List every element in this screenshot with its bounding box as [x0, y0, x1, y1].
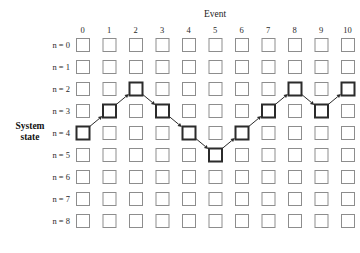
state-cell-e5-n4[interactable] — [209, 127, 222, 140]
state-cell-e1-n4[interactable] — [103, 127, 116, 140]
state-cell-e9-n4[interactable] — [315, 127, 328, 140]
state-cell-e4-n3[interactable] — [183, 105, 196, 118]
state-cell-e4-n1[interactable] — [183, 61, 196, 74]
state-cell-e10-n4[interactable] — [342, 127, 355, 140]
state-cell-e3-n2[interactable] — [156, 83, 169, 96]
state-cell-e5-n0[interactable] — [209, 39, 222, 52]
state-cell-e8-n5[interactable] — [289, 149, 302, 162]
state-cell-active-e0-n4[interactable] — [77, 127, 90, 140]
state-cell-e10-n0[interactable] — [342, 39, 355, 52]
state-cell-e3-n7[interactable] — [156, 193, 169, 206]
state-cell-e1-n6[interactable] — [103, 171, 116, 184]
state-cell-e5-n8[interactable] — [209, 215, 222, 228]
state-cell-e4-n6[interactable] — [183, 171, 196, 184]
state-cell-e7-n2[interactable] — [262, 83, 275, 96]
state-cell-e1-n2[interactable] — [103, 83, 116, 96]
state-cell-e2-n8[interactable] — [130, 215, 143, 228]
state-cell-e10-n8[interactable] — [342, 215, 355, 228]
state-cell-e9-n1[interactable] — [315, 61, 328, 74]
state-cell-e10-n1[interactable] — [342, 61, 355, 74]
state-cell-e4-n7[interactable] — [183, 193, 196, 206]
state-cell-e1-n0[interactable] — [103, 39, 116, 52]
state-cell-e3-n4[interactable] — [156, 127, 169, 140]
state-cell-e3-n6[interactable] — [156, 171, 169, 184]
state-cell-e8-n0[interactable] — [289, 39, 302, 52]
state-cell-e4-n2[interactable] — [183, 83, 196, 96]
state-cell-active-e10-n2[interactable] — [342, 83, 355, 96]
state-cell-e3-n8[interactable] — [156, 215, 169, 228]
state-cell-e5-n6[interactable] — [209, 171, 222, 184]
state-cell-e2-n7[interactable] — [130, 193, 143, 206]
state-cell-e5-n1[interactable] — [209, 61, 222, 74]
state-cell-e7-n0[interactable] — [262, 39, 275, 52]
state-cell-e0-n5[interactable] — [77, 149, 90, 162]
state-cell-e6-n3[interactable] — [236, 105, 249, 118]
state-cell-e4-n8[interactable] — [183, 215, 196, 228]
state-cell-e0-n7[interactable] — [77, 193, 90, 206]
state-cell-e2-n0[interactable] — [130, 39, 143, 52]
state-cell-e9-n5[interactable] — [315, 149, 328, 162]
state-cell-e8-n6[interactable] — [289, 171, 302, 184]
state-cell-e0-n6[interactable] — [77, 171, 90, 184]
state-cell-active-e1-n3[interactable] — [103, 105, 116, 118]
state-cell-e4-n0[interactable] — [183, 39, 196, 52]
state-cell-e8-n1[interactable] — [289, 61, 302, 74]
state-cell-e7-n5[interactable] — [262, 149, 275, 162]
state-cell-e10-n5[interactable] — [342, 149, 355, 162]
state-cell-e6-n6[interactable] — [236, 171, 249, 184]
state-cell-e10-n6[interactable] — [342, 171, 355, 184]
state-cell-e0-n0[interactable] — [77, 39, 90, 52]
state-cell-active-e5-n5[interactable] — [209, 149, 222, 162]
state-cell-e1-n1[interactable] — [103, 61, 116, 74]
column-label-5: 5 — [213, 25, 217, 35]
state-cell-e1-n5[interactable] — [103, 149, 116, 162]
state-cell-e9-n8[interactable] — [315, 215, 328, 228]
state-cell-e7-n1[interactable] — [262, 61, 275, 74]
state-cell-e5-n3[interactable] — [209, 105, 222, 118]
state-cell-e8-n4[interactable] — [289, 127, 302, 140]
state-cell-e0-n1[interactable] — [77, 61, 90, 74]
state-cell-active-e4-n4[interactable] — [183, 127, 196, 140]
state-cell-e7-n7[interactable] — [262, 193, 275, 206]
state-cell-e2-n5[interactable] — [130, 149, 143, 162]
state-cell-e10-n7[interactable] — [342, 193, 355, 206]
state-cell-e2-n4[interactable] — [130, 127, 143, 140]
state-cell-e0-n2[interactable] — [77, 83, 90, 96]
state-cell-e0-n8[interactable] — [77, 215, 90, 228]
state-cell-e7-n4[interactable] — [262, 127, 275, 140]
state-cell-e6-n5[interactable] — [236, 149, 249, 162]
state-cell-e3-n5[interactable] — [156, 149, 169, 162]
state-cell-e8-n8[interactable] — [289, 215, 302, 228]
state-cell-active-e9-n3[interactable] — [315, 105, 328, 118]
state-cell-e9-n2[interactable] — [315, 83, 328, 96]
state-cell-e9-n7[interactable] — [315, 193, 328, 206]
state-cell-e10-n3[interactable] — [342, 105, 355, 118]
state-cell-e7-n8[interactable] — [262, 215, 275, 228]
state-cell-e2-n3[interactable] — [130, 105, 143, 118]
state-cell-active-e3-n3[interactable] — [156, 105, 169, 118]
state-cell-e3-n0[interactable] — [156, 39, 169, 52]
state-cell-e5-n7[interactable] — [209, 193, 222, 206]
state-cell-e9-n6[interactable] — [315, 171, 328, 184]
state-cell-e3-n1[interactable] — [156, 61, 169, 74]
state-cell-e6-n8[interactable] — [236, 215, 249, 228]
state-cell-e6-n2[interactable] — [236, 83, 249, 96]
state-cell-e7-n6[interactable] — [262, 171, 275, 184]
state-cell-e0-n3[interactable] — [77, 105, 90, 118]
state-cell-active-e6-n4[interactable] — [236, 127, 249, 140]
state-cell-active-e2-n2[interactable] — [130, 83, 143, 96]
state-cell-e6-n0[interactable] — [236, 39, 249, 52]
state-cell-e8-n7[interactable] — [289, 193, 302, 206]
state-cell-e1-n8[interactable] — [103, 215, 116, 228]
state-cell-e4-n5[interactable] — [183, 149, 196, 162]
state-cell-e1-n7[interactable] — [103, 193, 116, 206]
state-cell-e2-n1[interactable] — [130, 61, 143, 74]
state-cell-e9-n0[interactable] — [315, 39, 328, 52]
state-cell-e5-n2[interactable] — [209, 83, 222, 96]
state-cell-e6-n7[interactable] — [236, 193, 249, 206]
state-cell-active-e7-n3[interactable] — [262, 105, 275, 118]
state-cell-active-e8-n2[interactable] — [289, 83, 302, 96]
state-cell-e8-n3[interactable] — [289, 105, 302, 118]
state-cell-e2-n6[interactable] — [130, 171, 143, 184]
state-cell-e6-n1[interactable] — [236, 61, 249, 74]
